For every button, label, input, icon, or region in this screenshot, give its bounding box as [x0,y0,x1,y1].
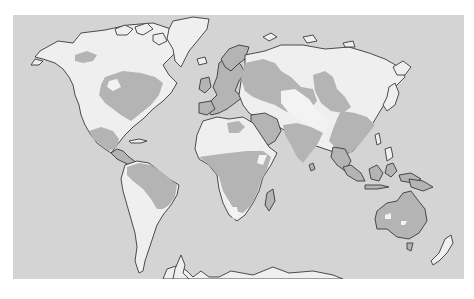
antarctica [163,265,343,279]
world-map [13,15,464,279]
new-zealand [431,235,453,265]
australia [375,179,433,251]
north-america [31,23,183,167]
world-map-svg [13,15,464,279]
iceland [197,57,207,65]
south-america [121,161,179,273]
